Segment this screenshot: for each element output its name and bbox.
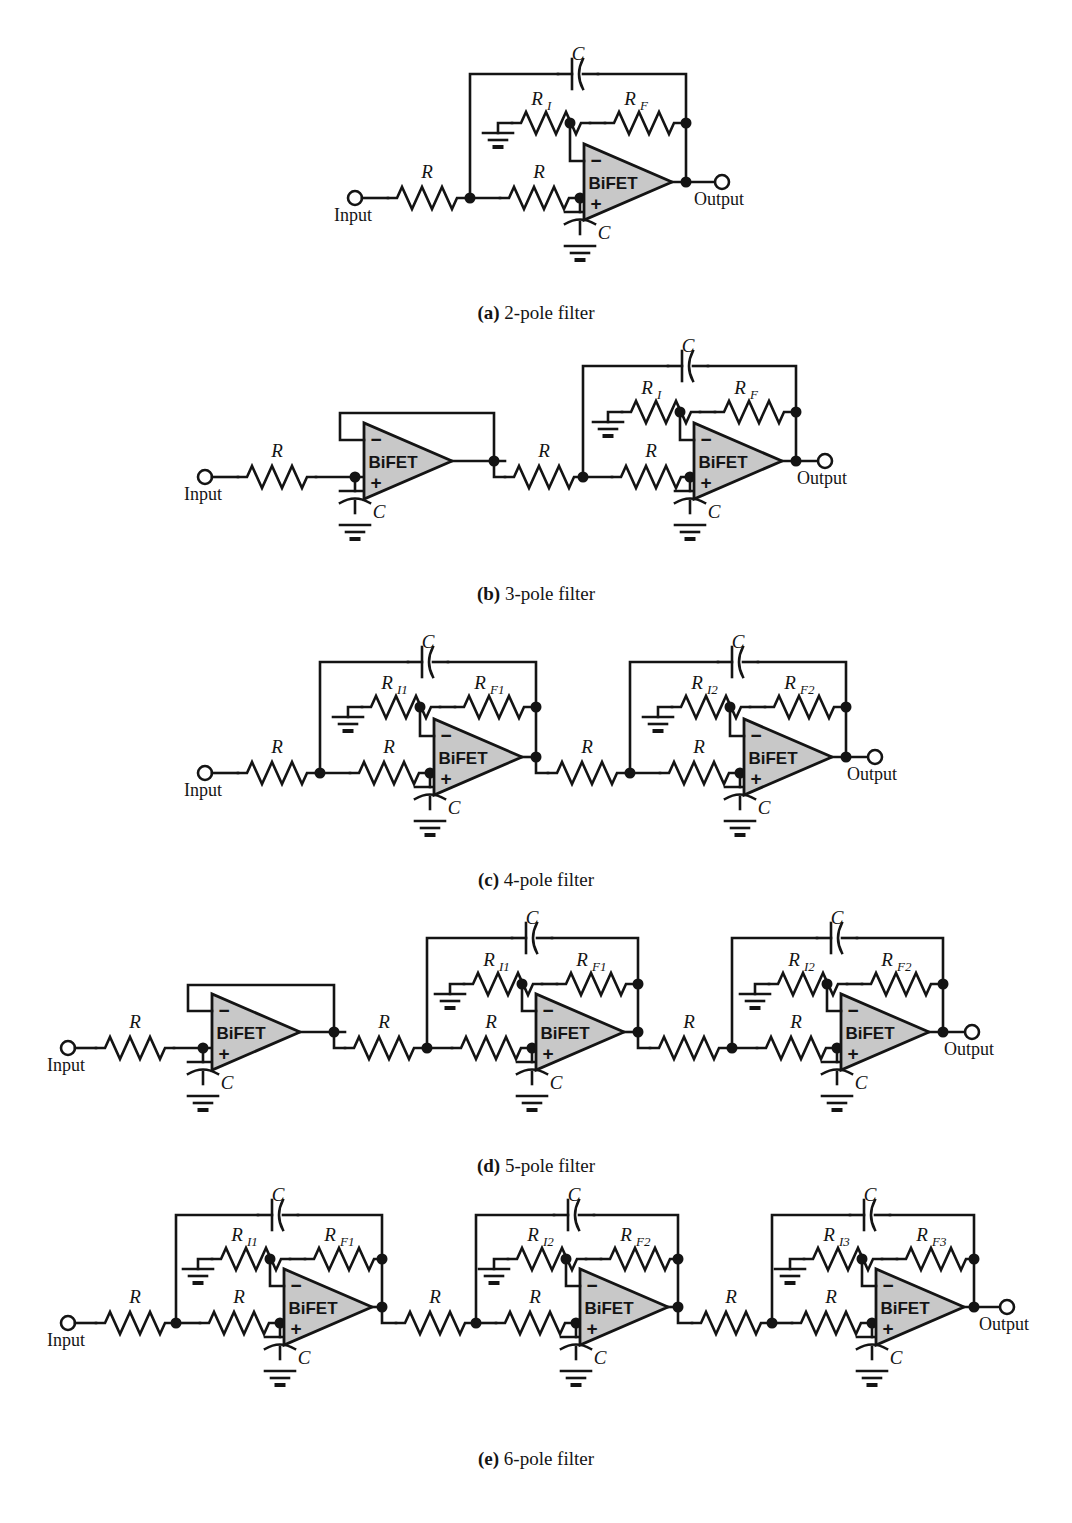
- ground-c1-shunt: [415, 821, 445, 835]
- resistor-RI3-e-sub: I3: [838, 1234, 850, 1249]
- opamp-b2-plus: +: [700, 472, 711, 493]
- caption-c: (c) 4-pole filter: [0, 869, 1072, 891]
- resistor-R-b2: [505, 466, 583, 488]
- resistor-RI1-c-sub: I1: [396, 682, 408, 697]
- caption-a-tag: (a): [477, 302, 499, 323]
- capacitor-C-b-feedback-label: C: [682, 335, 695, 356]
- resistor-R-e1: [96, 1312, 174, 1334]
- resistor-R-b3-label: R: [644, 440, 657, 461]
- resistor-R-c3: [548, 762, 626, 784]
- input-terminal-e[interactable]: [61, 1316, 75, 1330]
- opamp-d1-plus: +: [218, 1043, 229, 1064]
- ground-e2-RI: [479, 1269, 509, 1283]
- resistor-RI2-e: [508, 1248, 586, 1270]
- resistor-RF-b-sub: F: [749, 387, 759, 402]
- capacitor-C-d3-shunt-label: C: [855, 1072, 868, 1093]
- input-terminal-a[interactable]: [348, 191, 362, 205]
- input-terminal-b[interactable]: [198, 470, 212, 484]
- opamp-d3-label: BiFET: [845, 1024, 895, 1043]
- output-terminal-c[interactable]: [868, 750, 882, 764]
- opamp-d2-plus: +: [542, 1043, 553, 1064]
- resistor-R-d5-label: R: [789, 1011, 802, 1032]
- resistor-R-c4: [660, 762, 738, 784]
- resistor-R-e2: [200, 1312, 278, 1334]
- capacitor-C-d2-feedback-label: C: [526, 907, 539, 928]
- node-c1-inverting: [415, 702, 426, 713]
- input-label-b: Input: [184, 484, 222, 504]
- resistor-RF2-d-label: R: [880, 949, 893, 970]
- resistor-RF1-d-label: R: [575, 949, 588, 970]
- resistor-R-e4: [496, 1312, 574, 1334]
- output-label-e: Output: [979, 1314, 1029, 1334]
- resistor-R-d1: [96, 1037, 174, 1059]
- capacitor-C-e2-feedback-label: C: [568, 1184, 581, 1205]
- resistor-RF2-d: [862, 973, 940, 995]
- opamp-c1-minus: −: [440, 725, 451, 746]
- resistor-R-d3-label: R: [484, 1011, 497, 1032]
- capacitor-C-d1-shunt-label: C: [221, 1072, 234, 1093]
- row-e-6-pole-filter: Input R R C BiFET − + R I1 R F1 C: [47, 1184, 1029, 1385]
- node-b-inverting: [675, 407, 686, 418]
- input-terminal-d[interactable]: [61, 1041, 75, 1055]
- opamp-b1-label: BiFET: [368, 453, 418, 472]
- caption-d: (d) 5-pole filter: [0, 1155, 1072, 1177]
- resistor-RI2-e-sub: I2: [542, 1234, 554, 1249]
- node-e2-inverting: [561, 1254, 572, 1265]
- caption-c-tag: (c): [478, 869, 499, 890]
- output-terminal-e[interactable]: [1000, 1300, 1014, 1314]
- caption-d-text: 5-pole filter: [505, 1155, 595, 1176]
- resistor-RI-b-label: R: [640, 377, 653, 398]
- resistor-RF1-d: [557, 973, 635, 995]
- resistor-RI-a-sub: I: [546, 98, 552, 113]
- filter-schematics-svg: Input R R C BiFET − + Output R I: [0, 0, 1072, 1523]
- ground-e2-shunt: [561, 1371, 591, 1385]
- resistor-RI1-d: [464, 973, 542, 995]
- opamp-b1-plus: +: [370, 472, 381, 493]
- figure-container: Input R R C BiFET − + Output R I: [0, 0, 1072, 1523]
- ground-d1-shunt: [188, 1096, 218, 1110]
- ground-e3-RI: [775, 1269, 805, 1283]
- ground-b2-shunt: [675, 525, 705, 539]
- resistor-RI3-e: [804, 1248, 882, 1270]
- output-terminal-b[interactable]: [818, 454, 832, 468]
- capacitor-C-b1-shunt-label: C: [373, 501, 386, 522]
- caption-b-tag: (b): [477, 583, 500, 604]
- caption-e: (e) 6-pole filter: [0, 1448, 1072, 1470]
- resistor-RI2-e-label: R: [526, 1224, 539, 1245]
- opamp-c1-plus: +: [440, 768, 451, 789]
- resistor-RI2-d-sub: I2: [803, 959, 815, 974]
- resistor-RI-a: [512, 112, 590, 134]
- ground-d3-RI: [740, 994, 770, 1008]
- capacitor-C-e3-shunt-label: C: [890, 1347, 903, 1368]
- ground-b1-shunt: [340, 525, 370, 539]
- opamp-b2-minus: −: [700, 429, 711, 450]
- output-label-b: Output: [797, 468, 847, 488]
- opamp-a1-minus: −: [590, 150, 601, 171]
- resistor-R-e3: [396, 1312, 474, 1334]
- resistor-R-e2-label: R: [232, 1286, 245, 1307]
- resistor-RI1-c-label: R: [380, 672, 393, 693]
- opamp-e2-label: BiFET: [584, 1299, 634, 1318]
- resistor-RF2-d-sub: F2: [896, 959, 912, 974]
- caption-a-text: 2-pole filter: [504, 302, 594, 323]
- resistor-RF3-e-label: R: [915, 1224, 928, 1245]
- caption-b: (b) 3-pole filter: [0, 583, 1072, 605]
- resistor-R-c2-label: R: [382, 736, 395, 757]
- resistor-RI2-c-label: R: [690, 672, 703, 693]
- node-e3-inverting: [857, 1254, 868, 1265]
- capacitor-C-b2-shunt-label: C: [708, 501, 721, 522]
- node-c2-inverting: [725, 702, 736, 713]
- opamp-d1-label: BiFET: [216, 1024, 266, 1043]
- output-terminal-a[interactable]: [715, 175, 729, 189]
- ground-b-RI: [593, 422, 623, 436]
- resistor-R-e1-label: R: [128, 1286, 141, 1307]
- resistor-RI1-d-label: R: [482, 949, 495, 970]
- output-terminal-d[interactable]: [965, 1025, 979, 1039]
- capacitor-C-e1-shunt-label: C: [298, 1347, 311, 1368]
- resistor-R-a2-label: R: [532, 161, 545, 182]
- opamp-e2-minus: −: [586, 1275, 597, 1296]
- input-terminal-c[interactable]: [198, 766, 212, 780]
- resistor-R-d1-label: R: [128, 1011, 141, 1032]
- opamp-e1-minus: −: [290, 1275, 301, 1296]
- node-d2-inverting: [517, 979, 528, 990]
